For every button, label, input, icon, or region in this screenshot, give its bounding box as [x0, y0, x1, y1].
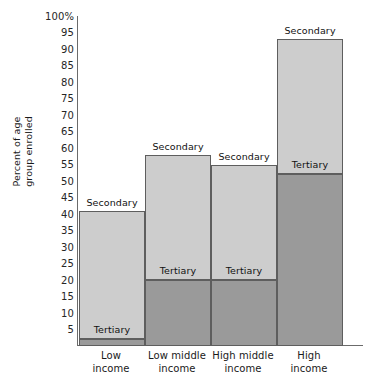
- y-tick-15: 15: [40, 292, 74, 302]
- segment-tertiary-low-income[interactable]: [79, 339, 145, 346]
- stacked-bar-chart: Percent of age group enrolled 100% 95 90…: [0, 0, 365, 385]
- segment-tertiary-low-middle-income[interactable]: [145, 280, 211, 346]
- bar-high-income[interactable]: Tertiary Secondary: [277, 39, 343, 346]
- y-tick-85: 85: [40, 61, 74, 71]
- y-tick-35: 35: [40, 226, 74, 236]
- y-tick-5: 5: [40, 325, 74, 335]
- y-axis-tick-labels: 100% 95 90 85 80 75 70 65 60 55 50 45 40…: [38, 0, 74, 385]
- y-tick-20: 20: [40, 276, 74, 286]
- y-tick-10: 10: [40, 309, 74, 319]
- segment-secondary-high-middle-income[interactable]: Tertiary: [211, 165, 277, 281]
- y-tick-25: 25: [40, 259, 74, 269]
- segment-secondary-high-income[interactable]: Tertiary: [277, 39, 343, 174]
- x-axis-tick-labels: Low income Low middle income High middle…: [78, 350, 346, 382]
- x-label-high-income: High income: [270, 350, 348, 375]
- bar-label-secondary-high-income: Secondary: [263, 26, 357, 36]
- y-tick-75: 75: [40, 94, 74, 104]
- segment-label-tertiary-high-income: Tertiary: [278, 160, 342, 170]
- segment-label-tertiary-low-middle-income: Tertiary: [146, 266, 210, 276]
- y-tick-90: 90: [40, 45, 74, 55]
- segment-label-tertiary-low-income: Tertiary: [80, 325, 144, 335]
- bar-high-middle-income[interactable]: Tertiary Secondary: [211, 165, 277, 347]
- y-tick-65: 65: [40, 127, 74, 137]
- y-tick-60: 60: [40, 144, 74, 154]
- y-tick-70: 70: [40, 111, 74, 121]
- y-tick-30: 30: [40, 243, 74, 253]
- y-tick-95: 95: [40, 28, 74, 38]
- segment-secondary-low-income[interactable]: Tertiary: [79, 211, 145, 340]
- bar-label-secondary-low-middle-income: Secondary: [131, 142, 225, 152]
- y-tick-80: 80: [40, 78, 74, 88]
- y-tick-100: 100%: [40, 12, 74, 22]
- plot-area: Tertiary Secondary Tertiary Secondary Te…: [78, 16, 346, 346]
- segment-tertiary-high-income[interactable]: [277, 174, 343, 346]
- y-tick-40: 40: [40, 210, 74, 220]
- bar-low-middle-income[interactable]: Tertiary Secondary: [145, 155, 211, 346]
- y-tick-55: 55: [40, 160, 74, 170]
- bar-low-income[interactable]: Tertiary Secondary: [79, 211, 145, 346]
- segment-label-tertiary-high-middle-income: Tertiary: [212, 266, 276, 276]
- y-tick-50: 50: [40, 177, 74, 187]
- segment-secondary-low-middle-income[interactable]: Tertiary: [145, 155, 211, 280]
- segment-tertiary-high-middle-income[interactable]: [211, 280, 277, 346]
- y-axis-title: Percent of age group enrolled: [11, 92, 34, 212]
